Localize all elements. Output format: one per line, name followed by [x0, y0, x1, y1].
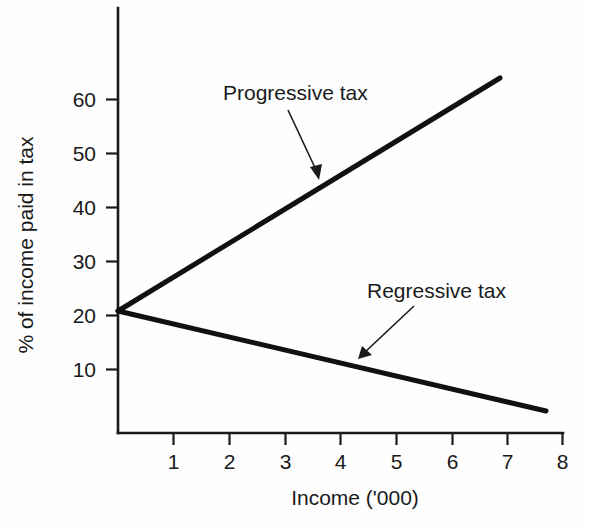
- y-axis-ticks: [106, 100, 118, 370]
- y-tick-label-10: 10: [73, 358, 96, 381]
- x-tick-label-8: 8: [557, 450, 569, 473]
- y-tick-label-20: 20: [73, 304, 96, 327]
- y-tick-label-50: 50: [73, 142, 96, 165]
- x-tick-label-5: 5: [391, 450, 403, 473]
- y-tick-label-60: 60: [73, 88, 96, 111]
- chart-canvas: 60 50 40 30 20 10 1 2 3 4 5 6 7 8: [0, 0, 590, 529]
- x-tick-label-3: 3: [280, 450, 292, 473]
- annotation-progressive-tax: Progressive tax: [223, 81, 368, 180]
- chart-figure: 60 50 40 30 20 10 1 2 3 4 5 6 7 8: [0, 0, 590, 529]
- x-tick-label-1: 1: [168, 450, 180, 473]
- x-tick-label-6: 6: [447, 450, 459, 473]
- y-tick-label-30: 30: [73, 250, 96, 273]
- x-axis-ticks: [174, 433, 563, 445]
- x-axis-title: Income ('000): [291, 486, 419, 509]
- axes-group: [118, 8, 563, 433]
- y-axis-tick-labels: 60 50 40 30 20 10: [73, 88, 96, 381]
- arrow-head-progressive-tax: [310, 164, 322, 180]
- x-tick-label-7: 7: [502, 450, 514, 473]
- y-axis-title: % of income paid in tax: [14, 136, 37, 354]
- x-tick-label-2: 2: [224, 450, 236, 473]
- y-tick-label-40: 40: [73, 196, 96, 219]
- leader-line-regressive-tax: [364, 306, 414, 353]
- leader-line-progressive-tax: [288, 110, 317, 172]
- series-label-regressive-tax: Regressive tax: [367, 279, 506, 302]
- annotation-regressive-tax: Regressive tax: [358, 279, 506, 359]
- series-label-progressive-tax: Progressive tax: [223, 81, 368, 104]
- x-tick-label-4: 4: [335, 450, 347, 473]
- x-axis-tick-labels: 1 2 3 4 5 6 7 8: [168, 450, 569, 473]
- data-series-group: [118, 78, 546, 411]
- series-line-progressive-tax: [118, 78, 500, 311]
- series-line-regressive-tax: [118, 311, 546, 411]
